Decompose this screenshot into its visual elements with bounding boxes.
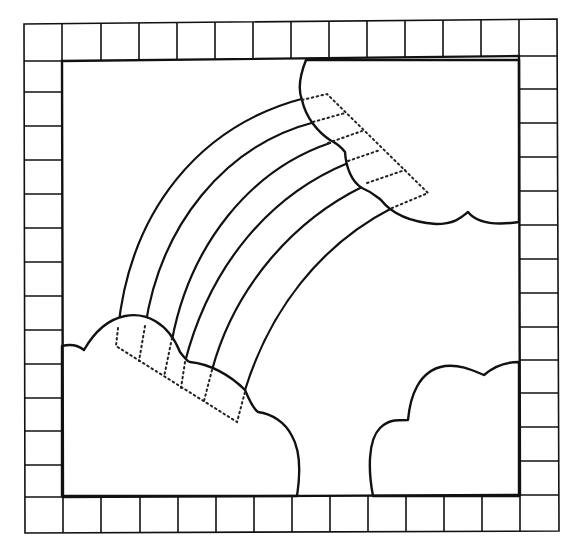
right-border-squares	[519, 56, 559, 495]
bottom-border-squares	[63, 495, 520, 533]
top-border-squares	[62, 19, 519, 61]
rainbow-line-1	[118, 98, 305, 330]
rainbow-line-6	[245, 208, 392, 390]
lower-right-cloud	[370, 362, 519, 496]
quilt-pattern-drawing	[0, 0, 586, 558]
rainbow-line-5	[212, 187, 362, 370]
rainbow-line-3	[172, 143, 330, 340]
left-border-squares	[24, 61, 63, 497]
